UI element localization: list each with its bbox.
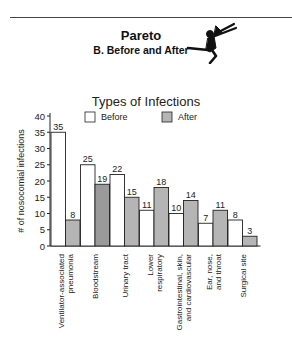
bar-after [243, 236, 258, 246]
data-label-after: 15 [127, 187, 137, 197]
data-label-before: 22 [112, 164, 122, 174]
x-tick-label: Gastrointestinal, skin, [175, 254, 184, 330]
data-label-after: 11 [216, 200, 225, 210]
legend-swatch-after [162, 112, 172, 122]
bar-before [81, 165, 96, 246]
bar-after [66, 220, 81, 246]
data-label-before: 25 [83, 154, 93, 164]
y-tick-label: 30 [34, 143, 45, 154]
y-tick-label: 35 [34, 127, 45, 138]
x-tick-label: respiratory [155, 254, 164, 292]
y-tick-label: 15 [34, 192, 45, 203]
bar-after [95, 184, 110, 246]
data-label-before: 10 [171, 203, 181, 213]
data-label-after: 19 [97, 174, 107, 184]
data-label-after: 3 [247, 226, 252, 236]
y-tick-label: 40 [34, 111, 45, 122]
x-tick-label: Ear, nose, [205, 254, 214, 290]
data-label-before: 8 [233, 210, 238, 220]
bar-chart: 0510152025303540# of nosocomial infectio… [0, 0, 292, 353]
data-label-after: 8 [70, 210, 75, 220]
y-axis-label: # of nosocomial infections [16, 129, 26, 233]
x-tick-label: Surgical site [239, 253, 248, 297]
data-label-after: 18 [156, 177, 166, 187]
bar-before [169, 214, 184, 247]
y-tick-label: 0 [40, 241, 45, 252]
x-tick-label: pneumonia [66, 253, 75, 293]
x-tick-label: and throat [214, 253, 223, 290]
bar-after [184, 201, 199, 247]
data-label-before: 11 [142, 200, 151, 210]
y-tick-label: 10 [34, 208, 45, 219]
x-tick-label: Lower [146, 254, 155, 276]
x-tick-label: Urinary tract [121, 253, 130, 297]
bar-before [140, 210, 155, 246]
bar-before [228, 220, 243, 246]
x-tick-label: Bloodstream [91, 254, 100, 299]
y-tick-label: 20 [34, 176, 45, 187]
bar-before [199, 223, 214, 246]
y-tick-label: 25 [34, 159, 45, 170]
legend-swatch-before [85, 112, 95, 122]
data-label-before: 35 [53, 122, 63, 132]
bar-after [125, 197, 140, 246]
data-label-after: 14 [186, 190, 196, 200]
legend-label-after: After [178, 112, 197, 122]
bar-before [110, 175, 125, 247]
legend-label-before: Before [101, 112, 128, 122]
x-tick-label: and cardiovascular [184, 254, 193, 321]
data-label-before: 7 [203, 213, 208, 223]
bar-after [213, 210, 228, 246]
y-tick-label: 5 [40, 224, 45, 235]
bar-before [51, 132, 66, 246]
x-tick-label: Ventilator-associated [57, 254, 66, 328]
bar-after [154, 188, 169, 247]
